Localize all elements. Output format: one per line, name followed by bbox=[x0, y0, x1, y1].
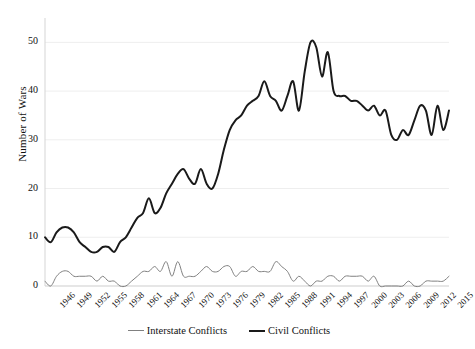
legend-label-interstate: Interstate Conflicts bbox=[147, 325, 227, 336]
legend-item-civil[interactable]: Civil Conflicts bbox=[249, 325, 330, 336]
x-axis-tick-label: 2015 bbox=[455, 290, 475, 310]
series-line-civil-conflicts bbox=[45, 41, 449, 253]
series-line-interstate-conflicts bbox=[45, 262, 449, 287]
y-axis-tick-label: 10 bbox=[14, 230, 38, 241]
y-axis-title: Number of Wars bbox=[16, 54, 28, 194]
legend-item-interstate[interactable]: Interstate Conflicts bbox=[128, 325, 227, 336]
y-axis-tick-label: 30 bbox=[14, 133, 38, 144]
legend-label-civil: Civil Conflicts bbox=[268, 325, 330, 336]
gridlines bbox=[45, 42, 449, 286]
chart-legend: Interstate Conflicts Civil Conflicts bbox=[0, 325, 458, 336]
y-axis-tick-label: 50 bbox=[14, 35, 38, 46]
y-axis-tick-label: 20 bbox=[14, 182, 38, 193]
series-lines bbox=[45, 41, 449, 287]
y-axis-tick-label: 0 bbox=[14, 279, 38, 290]
legend-line-interstate-icon bbox=[128, 330, 144, 331]
y-axis-tick-label: 40 bbox=[14, 84, 38, 95]
legend-line-civil-icon bbox=[249, 330, 265, 332]
